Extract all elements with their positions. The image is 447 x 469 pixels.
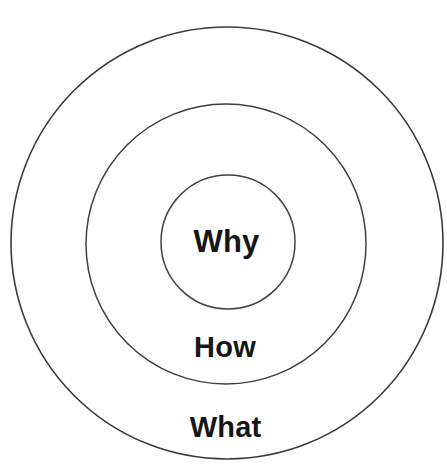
middle-ring-label-how: How <box>3 330 447 364</box>
inner-ring-label-why: Why <box>6 224 447 260</box>
outer-ring-label-what: What <box>4 410 447 444</box>
golden-circle-diagram: Why How What <box>0 0 447 469</box>
